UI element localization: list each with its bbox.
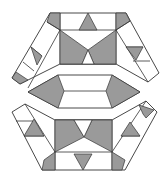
dissection-figure [0, 0, 166, 178]
middle-piece [28, 75, 140, 108]
bottom-piece [12, 101, 157, 170]
